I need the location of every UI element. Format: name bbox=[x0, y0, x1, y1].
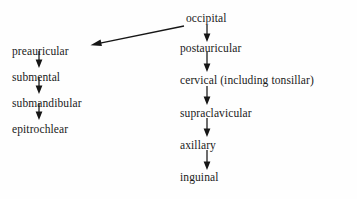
node-epitrochlear: epitrochlear bbox=[12, 124, 68, 136]
arrow-postauricular-to-cervical bbox=[204, 52, 211, 72]
node-supraclavicular: supraclavicular bbox=[180, 108, 252, 120]
node-submental: submental bbox=[12, 72, 60, 84]
arrow-supraclavicular-to-axillary bbox=[204, 118, 211, 137]
arrow-occipital-to-postauricular bbox=[204, 25, 211, 42]
node-preauricular: preauricular bbox=[12, 46, 69, 58]
node-occipital: occipital bbox=[186, 13, 227, 25]
arrow-cervical-to-supraclavicular bbox=[204, 86, 211, 105]
lymph-node-flowchart: preauricular submental submandibular epi… bbox=[0, 0, 357, 199]
node-inguinal: inguinal bbox=[180, 172, 219, 184]
node-postauricular: postauricular bbox=[180, 43, 241, 55]
node-submandibular: submandibular bbox=[12, 98, 82, 110]
node-axillary: axillary bbox=[180, 140, 216, 152]
arrow-occipital-to-preauricular bbox=[91, 26, 185, 46]
node-cervical-including-tonsillar: cervical (including tonsillar) bbox=[180, 75, 314, 87]
arrow-axillary-to-inguinal bbox=[204, 150, 211, 170]
